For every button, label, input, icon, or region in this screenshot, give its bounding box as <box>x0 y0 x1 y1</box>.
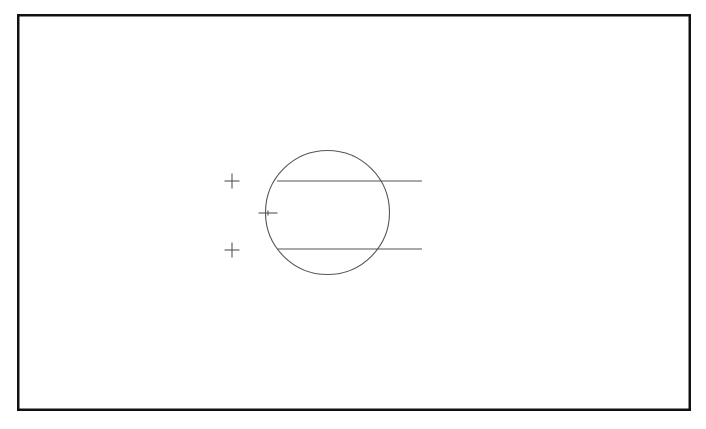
canvas-root <box>0 0 706 429</box>
drawing-surface[interactable] <box>0 0 706 429</box>
page-border <box>18 15 690 410</box>
